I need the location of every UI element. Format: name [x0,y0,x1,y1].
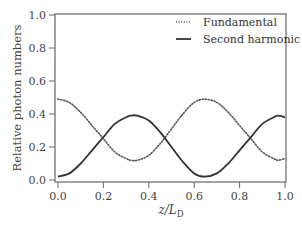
x-axis-label: z/LD [157,203,183,219]
x-tick-label: 0.2 [95,190,113,203]
y-tick-label: 0.0 [29,174,47,187]
y-tick-label: 0.4 [29,108,47,121]
y-axis-label: Relative photon numbers [10,24,24,171]
line-chart: 0.00.20.40.60.81.0 0.00.20.40.60.81.0 Fu… [0,0,302,228]
x-axis-ticks: 0.00.20.40.60.81.0 [49,182,294,203]
y-axis-ticks: 0.00.20.40.60.81.0 [29,9,56,187]
x-tick-label: 0.0 [49,190,67,203]
legend: Fundamental Second harmonic [176,16,300,46]
y-tick-label: 0.8 [29,42,47,55]
x-tick-label: 0.4 [140,190,158,203]
x-tick-label: 1.0 [276,190,294,203]
y-tick-label: 1.0 [29,9,47,22]
legend-second-harmonic-label: Second harmonic [203,33,300,46]
y-tick-label: 0.2 [29,141,47,154]
x-tick-label: 0.6 [185,190,203,203]
y-tick-label: 0.6 [29,75,47,88]
legend-fundamental-label: Fundamental [203,16,277,29]
x-tick-label: 0.8 [231,190,249,203]
